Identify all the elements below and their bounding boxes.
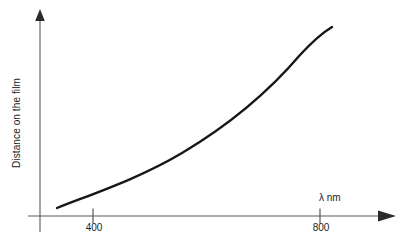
x-tick-label-400: 400 — [80, 223, 108, 233]
chart-figure: Distance on the film 400 800 λ nm — [0, 0, 413, 249]
y-axis-title-text: Distance on the film — [12, 78, 22, 168]
x-axis-title: λ nm — [319, 193, 341, 203]
y-axis-arrowhead — [35, 9, 45, 21]
y-axis-title: Distance on the film — [9, 60, 25, 186]
x-axis-arrowhead — [378, 211, 396, 222]
x-tick-label-800: 800 — [307, 223, 335, 233]
plot-canvas — [0, 0, 413, 249]
dispersion-curve — [57, 27, 332, 208]
